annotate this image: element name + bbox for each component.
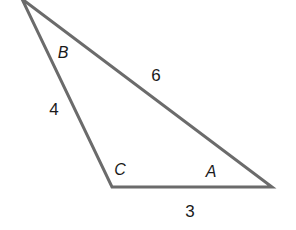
triangle-shape (0, 0, 296, 230)
angle-label-a: A (206, 164, 217, 180)
angle-label-b: B (58, 45, 69, 61)
side-label-bc: 4 (49, 101, 58, 118)
side-label-ba: 6 (151, 67, 160, 84)
side-label-ca: 3 (185, 203, 194, 220)
triangle-diagram: B C A 6 4 3 (0, 0, 296, 230)
angle-label-c: C (114, 162, 126, 178)
